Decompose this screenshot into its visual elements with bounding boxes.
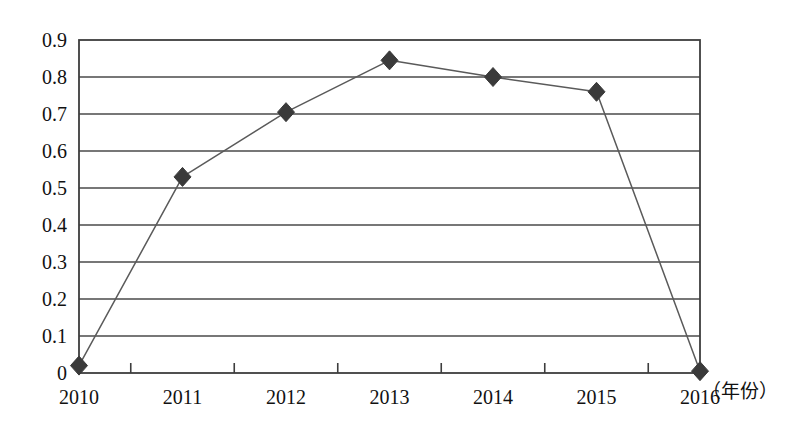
- chart-canvas: [0, 0, 803, 439]
- x-tick-label: 2012: [266, 387, 306, 407]
- x-tick-label: 2010: [59, 387, 99, 407]
- y-tick-label: 0.3: [0, 252, 67, 272]
- x-tick-label: 2015: [577, 387, 617, 407]
- y-tick-label: 0.7: [0, 104, 67, 124]
- y-tick-label: 0.1: [0, 326, 67, 346]
- y-tick-label: 0.9: [0, 30, 67, 50]
- series-line: [79, 60, 700, 371]
- x-axis-title: （年份）: [702, 382, 778, 401]
- gridlines-group: [79, 77, 700, 336]
- x-tick-label: 2013: [370, 387, 410, 407]
- y-tick-label: 0: [0, 363, 67, 383]
- series-markers: [71, 51, 709, 381]
- y-tick-label: 0.4: [0, 215, 67, 235]
- y-tick-label: 0.2: [0, 289, 67, 309]
- data-point-marker: [588, 82, 605, 101]
- x-tick-label: 2014: [473, 387, 513, 407]
- data-point-marker: [381, 51, 398, 70]
- data-point-marker: [485, 68, 502, 87]
- data-line: [79, 60, 700, 371]
- data-point-marker: [174, 167, 191, 186]
- x-axis-tickmarks: [131, 363, 649, 373]
- plot-border: [79, 40, 700, 373]
- y-tick-label: 0.6: [0, 141, 67, 161]
- y-tick-label: 0.5: [0, 178, 67, 198]
- plot-frame: [79, 40, 700, 373]
- data-point-marker: [692, 362, 709, 381]
- y-tick-label: 0.8: [0, 67, 67, 87]
- line-chart-figure: 0.90.80.70.60.50.40.30.20.10 20102011201…: [0, 0, 803, 439]
- x-tick-label: 2011: [163, 387, 202, 407]
- data-point-marker: [278, 103, 295, 122]
